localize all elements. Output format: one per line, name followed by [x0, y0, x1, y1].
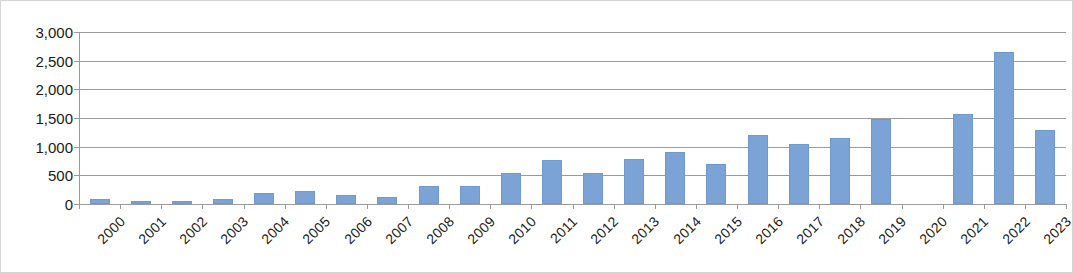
bar-slot	[408, 32, 449, 204]
x-tick-label: 2004	[258, 213, 292, 247]
y-tick-mark	[74, 61, 79, 62]
bar-chart: 3,0002,5002,0001,5001,0005000 2000200120…	[0, 0, 1073, 273]
x-tick-mark	[778, 204, 779, 209]
x-tick-mark	[326, 204, 327, 209]
x-tick-mark	[614, 204, 615, 209]
x-tick-label: 2007	[382, 213, 416, 247]
x-tick-label: 2012	[587, 213, 621, 247]
x-tick-label: 2006	[341, 213, 375, 247]
y-tick-mark	[74, 147, 79, 148]
x-tick-label: 2013	[629, 213, 663, 247]
x-tick-mark	[860, 204, 861, 209]
bar-slot	[326, 32, 367, 204]
bar-slot	[367, 32, 408, 204]
x-tick-mark	[573, 204, 574, 209]
bar-slot	[531, 32, 572, 204]
bar	[501, 173, 521, 204]
bar-slot	[202, 32, 243, 204]
x-tick-mark	[984, 204, 985, 209]
bar-slot	[819, 32, 860, 204]
x-tick-label: 2018	[834, 213, 868, 247]
y-tick-mark	[74, 175, 79, 176]
x-tick-label: 2008	[423, 213, 457, 247]
x-tick-label: 2011	[547, 213, 580, 246]
x-tick-label: 2005	[300, 213, 334, 247]
x-tick-label: 2010	[505, 213, 539, 247]
plot-area	[79, 32, 1066, 204]
bar-slot	[1025, 32, 1066, 204]
bar	[583, 173, 603, 204]
x-tick-mark	[244, 204, 245, 209]
bar-slot	[244, 32, 285, 204]
x-tick-mark	[737, 204, 738, 209]
x-tick-mark	[285, 204, 286, 209]
bar	[953, 114, 973, 204]
x-tick-mark	[79, 204, 80, 209]
bar-slot	[79, 32, 120, 204]
x-tick-label: 2002	[176, 213, 210, 247]
y-axis: 3,0002,5002,0001,5001,0005000	[1, 1, 73, 273]
bar	[542, 160, 562, 204]
bar-slot	[573, 32, 614, 204]
bar	[624, 159, 644, 204]
y-tick-mark	[74, 89, 79, 90]
x-tick-label: 2001	[135, 213, 169, 247]
bar-slot	[161, 32, 202, 204]
y-tick-mark	[74, 118, 79, 119]
x-tick-mark	[202, 204, 203, 209]
x-tick-label: 2009	[464, 213, 498, 247]
x-tick-mark	[408, 204, 409, 209]
bar	[254, 193, 274, 204]
bar-slot	[696, 32, 737, 204]
bar	[994, 52, 1014, 205]
bar-slot	[285, 32, 326, 204]
y-tick-mark	[74, 204, 79, 205]
x-tick-label: 2003	[217, 213, 251, 247]
x-tick-mark	[696, 204, 697, 209]
bar-slot	[490, 32, 531, 204]
x-tick-mark	[449, 204, 450, 209]
x-tick-mark	[1025, 204, 1026, 209]
bar-slot	[984, 32, 1025, 204]
x-tick-mark	[161, 204, 162, 209]
x-tick-mark	[120, 204, 121, 209]
x-tick-mark	[490, 204, 491, 209]
y-tick-label: 1,500	[5, 111, 73, 126]
bar-slot	[943, 32, 984, 204]
y-tick-label: 2,000	[5, 82, 73, 97]
y-tick-mark	[74, 32, 79, 33]
bar	[871, 119, 891, 204]
bar-slot	[902, 32, 943, 204]
x-tick-label: 2017	[793, 213, 827, 247]
y-tick-label: 2,500	[5, 53, 73, 68]
bar	[377, 197, 397, 204]
x-tick-label: 2019	[875, 213, 909, 247]
x-tick-label: 2020	[916, 213, 950, 247]
x-tick-label: 2015	[711, 213, 745, 247]
x-tick-mark	[819, 204, 820, 209]
y-tick-label: 500	[5, 168, 73, 183]
bar	[336, 195, 356, 204]
y-tick-label: 3,000	[5, 25, 73, 40]
bar	[419, 186, 439, 204]
x-tick-mark	[943, 204, 944, 209]
x-tick-mark	[367, 204, 368, 209]
bar	[1035, 130, 1055, 204]
x-tick-label: 2014	[670, 213, 704, 247]
x-tick-mark	[1066, 204, 1067, 209]
y-tick-label: 1,000	[5, 139, 73, 154]
bar	[748, 135, 768, 204]
bar	[460, 186, 480, 204]
bar-slot	[778, 32, 819, 204]
bar-slot	[655, 32, 696, 204]
bar-slot	[120, 32, 161, 204]
x-tick-label: 2016	[752, 213, 786, 247]
bar	[665, 152, 685, 204]
y-axis-line	[79, 32, 80, 205]
x-tick-mark	[655, 204, 656, 209]
bar-slot	[737, 32, 778, 204]
bar-slot	[449, 32, 490, 204]
y-tick-label: 0	[5, 197, 73, 212]
bar	[706, 164, 726, 204]
bar	[789, 144, 809, 204]
